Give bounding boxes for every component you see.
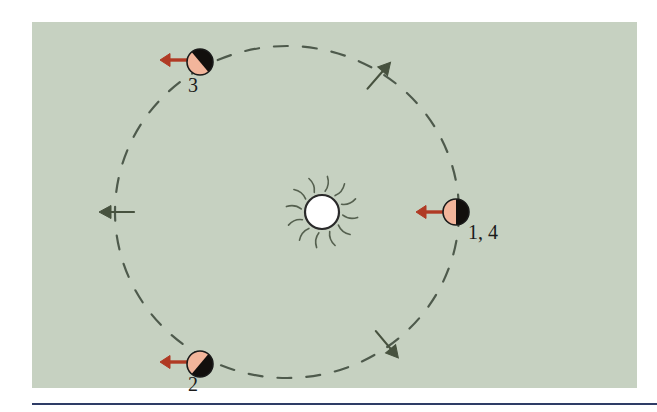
caption-divider — [32, 403, 657, 405]
planet-1-4-label: 1, 4 — [468, 221, 498, 243]
planet-2-label: 2 — [188, 373, 198, 395]
planet-3-label: 3 — [188, 74, 198, 96]
sun-disc — [305, 195, 339, 229]
orbit-diagram-canvas: 1, 423 — [0, 0, 657, 412]
orbit-figure: 1, 423 — [0, 0, 657, 412]
